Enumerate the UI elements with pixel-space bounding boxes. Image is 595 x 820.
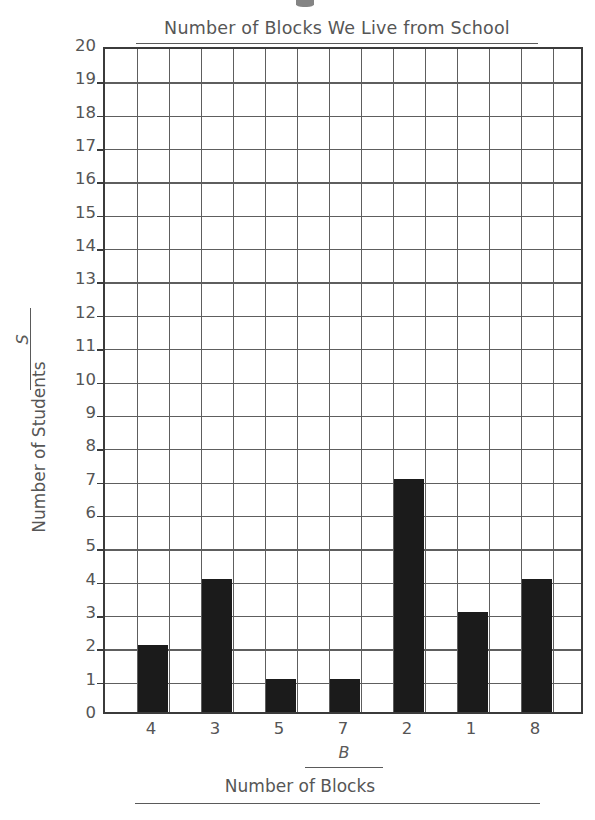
y-axis-tick bbox=[97, 416, 105, 418]
y-axis-tick-label: 6 bbox=[66, 505, 96, 521]
y-axis-tick bbox=[97, 449, 105, 451]
y-axis-tick bbox=[97, 383, 105, 385]
y-axis-tick-label: 5 bbox=[66, 538, 96, 554]
y-axis-tick bbox=[97, 282, 105, 284]
bar bbox=[266, 679, 296, 712]
chart-title: Number of Blocks We Live from School bbox=[136, 18, 538, 39]
x-axis-title: Number of Blocks bbox=[225, 776, 375, 796]
y-axis-tick-label: 12 bbox=[66, 305, 96, 321]
y-axis-tick bbox=[97, 549, 105, 551]
y-axis-tick bbox=[97, 316, 105, 318]
chart-title-underline bbox=[136, 43, 538, 44]
bar bbox=[138, 645, 168, 712]
y-axis-tick bbox=[97, 82, 105, 84]
y-axis-tick-label: 4 bbox=[66, 572, 96, 588]
y-axis-tick-label: 3 bbox=[66, 605, 96, 621]
y-axis-tick bbox=[97, 516, 105, 518]
bar bbox=[394, 479, 424, 712]
y-axis-tick bbox=[97, 182, 105, 184]
x-axis-tick-label: 8 bbox=[519, 719, 551, 739]
y-axis-tick-label: 7 bbox=[66, 472, 96, 488]
x-variable-container: B bbox=[296, 743, 392, 762]
y-axis-tick-label: 1 bbox=[66, 672, 96, 688]
chart-title-container: Number of Blocks We Live from School bbox=[136, 18, 538, 39]
bar bbox=[202, 579, 232, 712]
y-axis-tick-label: 11 bbox=[66, 338, 96, 354]
x-axis-title-underline bbox=[135, 803, 540, 804]
y-axis-tick-label: 0 bbox=[66, 705, 96, 721]
cropped-text-artifact bbox=[296, 0, 314, 7]
y-axis-tick bbox=[97, 349, 105, 351]
y-axis-labels: 20191817161514131211109876543210 bbox=[58, 47, 96, 714]
y-axis-tick bbox=[97, 149, 105, 151]
y-axis-tick bbox=[97, 116, 105, 118]
y-axis-tick-label: 17 bbox=[66, 138, 96, 154]
x-axis-tick-label: 3 bbox=[199, 719, 231, 739]
x-axis-tick-label: 2 bbox=[391, 719, 423, 739]
y-axis-tick-label: 2 bbox=[66, 638, 96, 654]
plot-area bbox=[103, 47, 583, 714]
y-axis-tick bbox=[97, 683, 105, 685]
y-axis-tick bbox=[97, 616, 105, 618]
x-axis-tick-label: 4 bbox=[135, 719, 167, 739]
bar bbox=[330, 679, 360, 712]
y-axis-tick bbox=[97, 583, 105, 585]
x-axis-variable: B bbox=[339, 743, 350, 762]
x-title-container: Number of Blocks bbox=[155, 776, 445, 796]
y-axis-tick bbox=[97, 216, 105, 218]
bar-series bbox=[105, 49, 581, 712]
x-axis-labels: 4357218 bbox=[103, 719, 583, 745]
y-axis-tick-label: 9 bbox=[66, 405, 96, 421]
y-axis-tick bbox=[97, 249, 105, 251]
y-axis-tick-label: 10 bbox=[66, 372, 96, 388]
y-axis-tick-label: 16 bbox=[66, 171, 96, 187]
y-axis-tick-label: 14 bbox=[66, 238, 96, 254]
x-axis-tick-label: 1 bbox=[455, 719, 487, 739]
y-axis-tick-label: 13 bbox=[66, 271, 96, 287]
y-axis-tick-label: 18 bbox=[66, 105, 96, 121]
y-axis-tick-label: 19 bbox=[66, 71, 96, 87]
y-axis-tick bbox=[97, 649, 105, 651]
x-axis-tick-label: 7 bbox=[327, 719, 359, 739]
y-axis-tick bbox=[97, 483, 105, 485]
bar bbox=[458, 612, 488, 712]
bar bbox=[522, 579, 552, 712]
x-axis-tick-label: 5 bbox=[263, 719, 295, 739]
y-axis-tick-label: 8 bbox=[66, 438, 96, 454]
y-axis-tick-label: 20 bbox=[66, 38, 96, 54]
y-axis-tick-label: 15 bbox=[66, 205, 96, 221]
y-axis-title: Number of Students bbox=[29, 347, 49, 547]
x-variable-underline bbox=[305, 767, 383, 768]
